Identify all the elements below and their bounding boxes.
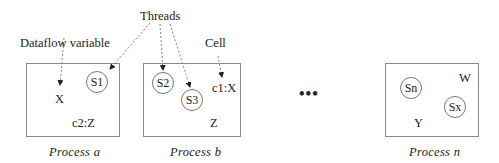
threads-annotation: Threads xyxy=(140,10,180,23)
dataflow-variable-z: Z xyxy=(210,117,218,130)
process-b-caption: Process b xyxy=(170,146,221,159)
process-a-caption: Process a xyxy=(49,146,100,159)
dataflow-variable-annotation: Dataflow variable xyxy=(20,37,110,50)
dataflow-variable-x: X xyxy=(55,93,64,106)
thread-s3: S3 xyxy=(181,89,203,111)
cell-c1-x: c1:X xyxy=(212,82,236,95)
ellipsis: ••• xyxy=(299,86,319,102)
cell-annotation: Cell xyxy=(205,37,226,50)
dataflow-variable-y: Y xyxy=(414,117,423,130)
thread-sx: Sx xyxy=(444,96,466,118)
thread-s2: S2 xyxy=(152,72,174,94)
dataflow-variable-w: W xyxy=(459,72,471,85)
thread-sn: Sn xyxy=(400,77,422,99)
cell-c2-z: c2:Z xyxy=(72,117,95,130)
process-n-caption: Process n xyxy=(409,146,460,159)
thread-s1: S1 xyxy=(86,71,108,93)
